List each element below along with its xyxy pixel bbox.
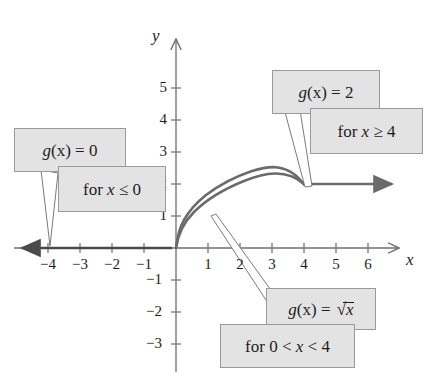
callout-right-fn: g [299, 83, 308, 102]
x-tick-label-2: 2 [227, 256, 253, 273]
callout-bottom-arg: (x) [297, 300, 317, 319]
callout-left-fn: g [43, 141, 52, 160]
x-axis-label: x [406, 250, 414, 270]
y-tick-label-3: 3 [141, 143, 167, 160]
callout-left-rhs: = 0 [75, 141, 97, 160]
x-tick-label-5: 5 [323, 256, 349, 273]
y-tick-label--2: −2 [136, 303, 162, 320]
callout-left-var: x [107, 180, 115, 199]
callout-right-condition: for x ≥ 4 [310, 108, 423, 154]
callout-right-rest: ≥ 4 [373, 122, 395, 141]
callout-bottom-for: for 0 < [245, 337, 291, 356]
x-tick-label--2: −2 [99, 256, 125, 273]
leader-line-left [41, 170, 58, 246]
callout-right-for: for [338, 122, 358, 141]
callout-left-for: for [83, 180, 103, 199]
x-tick-label-4: 4 [291, 256, 317, 273]
callout-bottom-var: x [296, 337, 304, 356]
y-axis-label: y [152, 26, 160, 46]
y-tick-label--1: −1 [136, 271, 162, 288]
callout-bottom-condition: for 0 < x < 4 [220, 324, 355, 368]
x-tick-label--3: −3 [67, 256, 93, 273]
callout-right-rhs: = 2 [331, 83, 353, 102]
callout-bottom-rest: < 4 [308, 337, 330, 356]
callout-left-rest: ≤ 0 [119, 180, 141, 199]
x-tick-label-3: 3 [259, 256, 285, 273]
x-tick-label-6: 6 [355, 256, 381, 273]
y-tick-label-5: 5 [141, 79, 167, 96]
callout-bottom-rhs: = [321, 300, 331, 319]
callout-left-arg: (x) [51, 141, 71, 160]
x-tick-label-1: 1 [195, 256, 221, 273]
callout-right-var: x [362, 122, 370, 141]
curve-segment-sqrt [176, 167, 304, 248]
callout-right-arg: (x) [307, 83, 327, 102]
callout-bottom-fn: g [288, 300, 297, 319]
figure-canvas: y x −4 −3 −2 −1 1 2 3 4 5 6 5 4 3 2 1 −1… [0, 0, 432, 385]
y-tick-label-4: 4 [141, 111, 167, 128]
y-tick-label--3: −3 [136, 335, 162, 352]
callout-left-condition: for x ≤ 0 [58, 166, 166, 212]
x-tick-label--4: −4 [35, 256, 61, 273]
sqrt-icon: √x [335, 301, 354, 318]
